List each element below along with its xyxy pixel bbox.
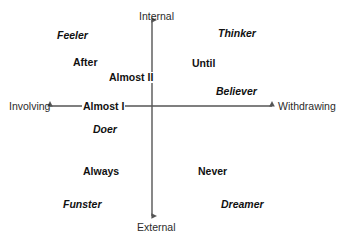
axis-label-internal: Internal: [139, 11, 174, 22]
axes-group: [0, 0, 338, 241]
quadrant-diagram: Internal External Involving Withdrawing …: [0, 0, 338, 241]
term-after: After: [73, 57, 98, 68]
axis-label-involving: Involving: [9, 101, 50, 112]
term-until: Until: [192, 58, 215, 69]
term-never: Never: [198, 166, 227, 177]
term-always: Always: [83, 166, 119, 177]
term-doer: Doer: [93, 124, 117, 135]
term-believer: Believer: [216, 86, 257, 97]
term-funster: Funster: [63, 199, 102, 210]
axis-label-withdrawing: Withdrawing: [278, 101, 336, 112]
center-marker-almost-ii: Almost II: [108, 72, 154, 83]
term-dreamer: Dreamer: [221, 199, 264, 210]
axis-label-external: External: [137, 222, 176, 233]
term-feeler: Feeler: [57, 30, 88, 41]
center-marker-almost-i: Almost I: [82, 101, 125, 112]
term-thinker: Thinker: [218, 28, 256, 39]
